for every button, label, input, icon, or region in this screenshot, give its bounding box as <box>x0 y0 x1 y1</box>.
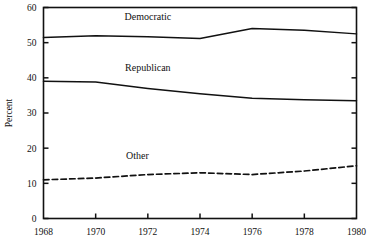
x-tick-label-1970: 1970 <box>86 227 105 237</box>
y-tick-label-30: 30 <box>27 108 37 118</box>
chart-container: 0102030405060 19681970197219741976197819… <box>0 0 389 250</box>
series-label-democratic: Democratic <box>125 11 172 22</box>
series-label-republican: Republican <box>125 62 171 73</box>
line-chart: 0102030405060 19681970197219741976197819… <box>0 0 389 250</box>
y-tick-label-0: 0 <box>32 214 37 224</box>
x-tick-label-1980: 1980 <box>347 227 366 237</box>
series-line-other <box>44 166 357 180</box>
y-tick-label-50: 50 <box>27 38 37 48</box>
series-line-republican <box>44 81 357 100</box>
y-tick-label-40: 40 <box>27 73 37 83</box>
x-axis-ticks: 1968197019721974197619781980 <box>34 214 366 237</box>
x-tick-label-1974: 1974 <box>191 227 210 237</box>
x-tick-label-1972: 1972 <box>138 227 157 237</box>
y-tick-label-60: 60 <box>27 3 37 13</box>
y-tick-label-20: 20 <box>27 144 37 154</box>
data-series-group <box>44 29 357 180</box>
series-label-other: Other <box>126 150 149 161</box>
x-tick-label-1978: 1978 <box>295 227 314 237</box>
series-line-democratic <box>44 29 357 39</box>
y-tick-label-10: 10 <box>27 179 37 189</box>
x-tick-label-1968: 1968 <box>34 227 53 237</box>
x-tick-label-1976: 1976 <box>243 227 262 237</box>
y-axis-title: Percent <box>4 98 14 127</box>
